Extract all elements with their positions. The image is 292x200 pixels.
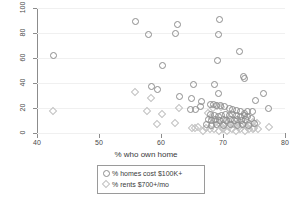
y-tick <box>33 8 37 9</box>
y-tick-label: 80 <box>19 23 26 43</box>
data-point <box>190 81 197 88</box>
data-point <box>146 94 154 102</box>
data-point <box>265 105 272 112</box>
data-point <box>176 93 183 100</box>
gridline <box>37 83 285 84</box>
data-point <box>241 75 248 82</box>
x-tick <box>223 134 224 138</box>
legend-label-rents: % rents $700+/mo <box>112 179 169 190</box>
data-point <box>215 90 222 97</box>
x-tick <box>37 134 38 138</box>
data-point <box>132 18 139 25</box>
data-point <box>159 62 166 69</box>
data-point <box>145 31 152 38</box>
scatter-plot-figure: 020406080100 4050607080 % who own home %… <box>0 0 292 200</box>
circle-marker-icon <box>101 168 112 179</box>
gridline <box>37 33 285 34</box>
data-point <box>197 103 204 110</box>
y-tick-label: 0 <box>19 123 26 143</box>
data-point <box>214 57 221 64</box>
y-tick <box>33 83 37 84</box>
plot-area <box>37 8 285 133</box>
data-point <box>227 121 234 128</box>
x-tick-label: 70 <box>213 139 233 146</box>
data-point <box>236 48 243 55</box>
x-tick <box>99 134 100 138</box>
gridline <box>37 8 285 9</box>
y-tick-label: 100 <box>19 0 26 18</box>
diamond-marker-icon <box>101 179 112 190</box>
x-tick <box>161 134 162 138</box>
x-tick-label: 40 <box>27 139 47 146</box>
data-point <box>188 95 195 102</box>
x-axis-title: % who own home <box>0 150 292 159</box>
data-point <box>251 120 258 127</box>
x-tick <box>285 134 286 138</box>
x-tick-label: 60 <box>151 139 171 146</box>
data-point <box>170 119 178 127</box>
gridline <box>37 58 285 59</box>
legend-entry-rents: % rents $700+/mo <box>101 179 201 190</box>
x-tick-label: 50 <box>89 139 109 146</box>
y-tick-label: 60 <box>19 48 26 68</box>
legend-entry-homes: % homes cost $100K+ <box>101 168 201 179</box>
data-point <box>252 97 259 104</box>
data-point <box>216 16 223 23</box>
data-point <box>153 120 161 128</box>
y-tick-label: 40 <box>19 73 26 93</box>
data-point <box>175 104 183 112</box>
data-point <box>211 81 218 88</box>
data-point <box>131 88 139 96</box>
data-point <box>172 30 179 37</box>
data-point <box>260 90 267 97</box>
y-tick-label: 20 <box>19 98 26 118</box>
y-tick <box>33 33 37 34</box>
data-point <box>154 86 161 93</box>
data-point <box>50 52 57 59</box>
legend-label-homes: % homes cost $100K+ <box>112 168 182 179</box>
legend: % homes cost $100K+ % rents $700+/mo <box>97 165 205 194</box>
y-tick <box>33 108 37 109</box>
data-point <box>158 110 166 118</box>
y-tick <box>33 58 37 59</box>
x-tick-label: 80 <box>275 139 292 146</box>
data-point <box>265 123 273 131</box>
data-point <box>174 21 181 28</box>
data-point <box>215 31 222 38</box>
